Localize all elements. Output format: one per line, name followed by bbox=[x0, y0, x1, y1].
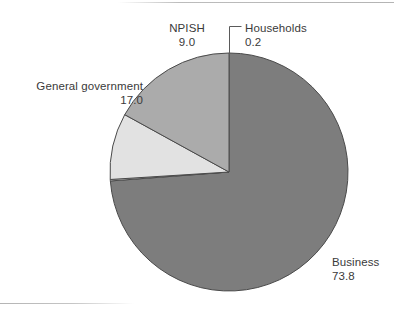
slice-label-households: Households 0.2 bbox=[245, 21, 365, 49]
slice-label-npish-value: 9.0 bbox=[150, 35, 224, 49]
slice-label-npish-name: NPISH bbox=[169, 22, 205, 34]
slice-label-business-name: Business bbox=[332, 256, 379, 268]
slice-label-business: Business 73.8 bbox=[332, 255, 394, 283]
leader-line-group bbox=[230, 27, 242, 56]
slice-label-general-government: General government 17.0 bbox=[8, 79, 143, 107]
slice-label-npish: NPISH 9.0 bbox=[150, 21, 224, 49]
slice-label-general-government-name: General government bbox=[36, 80, 143, 92]
slice-label-households-value: 0.2 bbox=[245, 35, 365, 49]
slice-label-general-government-value: 17.0 bbox=[8, 93, 143, 107]
households-leader-line bbox=[230, 27, 242, 56]
pie-slice-group bbox=[110, 53, 348, 291]
slice-label-business-value: 73.8 bbox=[332, 269, 394, 283]
slice-label-households-name: Households bbox=[245, 22, 307, 34]
pie-chart-figure: General government 17.0 NPISH 9.0 Househ… bbox=[0, 0, 394, 310]
